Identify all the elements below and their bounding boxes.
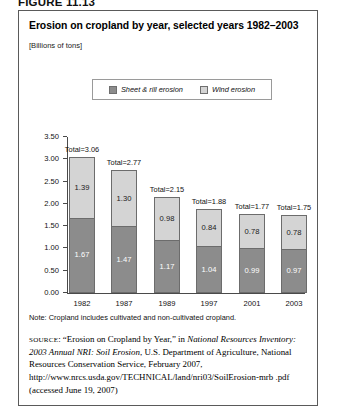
y-axis-tick: 3.00: [29, 154, 67, 164]
bar-segment-sheet-rill-erosion[interactable]: 1.67: [69, 219, 95, 293]
figure-panel: Erosion on cropland by year, selected ye…: [18, 10, 318, 406]
bar-stack[interactable]: 0.841.04: [196, 209, 222, 293]
legend-label: Sheet & rill erosion: [121, 85, 183, 94]
bar-total-label: Total=1.75: [277, 203, 311, 212]
x-axis-tick-label: 1989: [154, 299, 180, 308]
bar-total-label: Total=2.15: [150, 185, 184, 194]
chart-units-label: [Billions of tons]: [29, 41, 82, 50]
bar-segment-value: 0.84: [202, 224, 217, 232]
bar-stack[interactable]: 1.301.47: [111, 170, 137, 293]
chart-title: Erosion on cropland by year, selected ye…: [29, 20, 311, 32]
y-axis-tick-label: 0.50: [44, 266, 59, 276]
y-axis-tick: 2.00: [29, 199, 67, 209]
bar-total-label: Total=3.06: [65, 145, 99, 154]
y-axis-tick-label: 2.00: [44, 199, 59, 209]
bar-segment-wind-erosion[interactable]: 0.84: [196, 209, 222, 246]
bar-segment-value: 0.99: [245, 267, 260, 275]
x-axis-tick-label: 1982: [69, 299, 95, 308]
bar-stack[interactable]: 0.780.97: [281, 215, 307, 293]
y-axis-tick-label: 0.00: [44, 288, 59, 298]
y-axis-tick: 1.50: [29, 221, 67, 231]
bar-segment-wind-erosion[interactable]: 0.98: [154, 197, 180, 241]
y-axis-tick-label: 3.50: [44, 132, 59, 142]
legend-label: Wind erosion: [212, 85, 255, 94]
bar-segment-value: 1.67: [75, 251, 90, 259]
legend-entry: Sheet & rill erosion: [109, 85, 183, 94]
bar-segment-wind-erosion[interactable]: 1.39: [69, 157, 95, 219]
bar-stack[interactable]: 1.391.67: [69, 157, 95, 293]
y-axis-tick-mark: [63, 181, 67, 182]
bar-segment-value: 0.78: [245, 228, 260, 236]
figure-label: FIGURE 11.13: [18, 0, 95, 8]
bar-segment-value: 0.98: [160, 215, 175, 223]
x-axis-line: [67, 293, 305, 294]
bar-segment-value: 0.97: [287, 267, 302, 275]
x-axis-tick-label: 1997: [196, 299, 222, 308]
y-axis-tick-label: 1.50: [44, 221, 59, 231]
chart-note: Note: Cropland includes cultivated and n…: [29, 313, 313, 322]
y-axis-tick-mark: [63, 203, 67, 204]
bar-segment-sheet-rill-erosion[interactable]: 1.04: [196, 247, 222, 293]
source-text-part-1: : “Erosion on Cropland by Year,” in: [58, 334, 187, 344]
bar-segment-sheet-rill-erosion[interactable]: 0.99: [239, 249, 265, 293]
bar-segment-sheet-rill-erosion[interactable]: 1.47: [111, 227, 137, 293]
legend-swatch-wind: [200, 86, 208, 94]
y-axis-tick-label: 1.00: [44, 243, 59, 253]
plot-area: 1.391.67Total=3.061.301.47Total=2.770.98…: [67, 137, 305, 293]
y-axis-tick-mark: [63, 136, 67, 137]
y-axis-tick-mark: [63, 270, 67, 271]
bar-segment-wind-erosion[interactable]: 0.78: [281, 215, 307, 250]
bar-stack[interactable]: 0.981.17: [154, 197, 180, 293]
y-axis-tick: 3.50: [29, 132, 67, 142]
y-axis-tick: 1.00: [29, 243, 67, 253]
y-axis-tick-mark: [63, 292, 67, 293]
bar-total-label: Total=1.88: [192, 197, 226, 206]
bar-segment-sheet-rill-erosion[interactable]: 0.97: [281, 250, 307, 293]
bar-segment-value: 1.04: [202, 266, 217, 274]
bar-segment-value: 1.17: [160, 263, 175, 271]
bar-segment-value: 1.39: [75, 184, 90, 192]
y-axis-tick-mark: [63, 158, 67, 159]
legend-entry: Wind erosion: [200, 85, 255, 94]
y-axis-tick: 0.50: [29, 266, 67, 276]
bar-total-label: Total=1.77: [235, 202, 269, 211]
y-axis-tick: 2.50: [29, 177, 67, 187]
legend-swatch-sheet-rill: [109, 86, 117, 94]
bar-segment-value: 0.78: [287, 229, 302, 237]
y-axis-tick-mark: [63, 247, 67, 248]
x-axis-tick-label: 1987: [111, 299, 137, 308]
bar-stack[interactable]: 0.780.99: [239, 214, 265, 293]
bar-total-label: Total=2.77: [107, 158, 141, 167]
source-tag-label: SOURCE: [29, 336, 58, 344]
bar-segment-value: 1.47: [117, 256, 132, 264]
bar-segment-wind-erosion[interactable]: 0.78: [239, 214, 265, 249]
y-axis-tick: 0.00: [29, 288, 67, 298]
bar-segment-wind-erosion[interactable]: 1.30: [111, 170, 137, 228]
x-axis-tick-label: 2003: [281, 299, 307, 308]
chart-source: SOURCE: “Erosion on Cropland by Year,” i…: [29, 333, 315, 396]
chart-plot: 1.391.67Total=3.061.301.47Total=2.770.98…: [29, 121, 311, 313]
chart-legend: Sheet & rill erosionWind erosion: [92, 79, 272, 100]
y-axis-tick-label: 2.50: [44, 177, 59, 187]
y-axis-tick-mark: [63, 225, 67, 226]
bar-segment-value: 1.30: [117, 195, 132, 203]
y-axis-tick-label: 3.00: [44, 154, 59, 164]
bar-segment-sheet-rill-erosion[interactable]: 1.17: [154, 241, 180, 293]
x-axis-tick-label: 2001: [239, 299, 265, 308]
